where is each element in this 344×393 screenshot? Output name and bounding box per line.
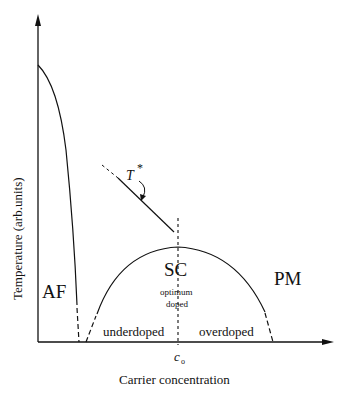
x-marker-sub: o — [181, 357, 185, 366]
phase-diagram: Temperature (arb.units) Carrier concentr… — [0, 0, 344, 393]
pseudogap-label: T — [126, 168, 135, 183]
x-axis-label: Carrier concentration — [119, 372, 230, 387]
pseudogap-arrow — [139, 181, 145, 197]
y-axis-arrow-icon — [35, 14, 41, 26]
af-boundary-dashed — [77, 308, 79, 342]
region-pm-label: PM — [274, 268, 302, 289]
pseudogap-dashed — [102, 165, 118, 178]
underdoped-label: underdoped — [103, 324, 165, 339]
sc-dome-dashed-right — [265, 313, 273, 342]
x-axis-arrow-icon — [322, 339, 334, 345]
optimum-label-2: doped — [166, 299, 188, 309]
region-sc-label: SC — [164, 259, 187, 280]
pseudogap-arrow-head-icon — [140, 194, 146, 201]
x-marker-label: c — [174, 349, 180, 364]
optimum-label-1: optimum — [160, 287, 193, 297]
sc-dome-dashed-left — [86, 316, 96, 342]
region-af-label: AF — [42, 281, 66, 302]
overdoped-label: overdoped — [199, 324, 254, 339]
af-boundary-curve — [38, 65, 77, 305]
pseudogap-sup: * — [137, 161, 143, 175]
pseudogap-line — [118, 178, 174, 232]
y-axis-label: Temperature (arb.units) — [10, 177, 25, 300]
